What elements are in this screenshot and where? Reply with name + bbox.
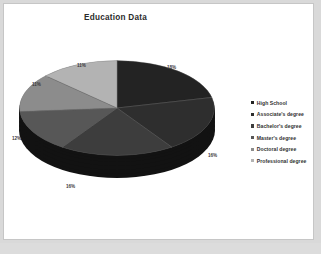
legend-swatch-icon	[251, 124, 254, 127]
pie-top-face	[19, 60, 215, 156]
legend-item: Master's degree	[251, 132, 319, 144]
legend-item-label: Master's degree	[257, 135, 296, 141]
pie-slices	[19, 60, 215, 156]
legend-swatch-icon	[251, 101, 254, 104]
legend-item-label: High School	[257, 100, 287, 106]
chart-legend: High School Associate's degree Bachelor'…	[251, 97, 319, 167]
chart-title: Education Data	[3, 13, 228, 22]
legend-item: Professional degree	[251, 155, 319, 167]
legend-item-label: Bachelor's degree	[257, 123, 302, 129]
legend-item: Doctoral degree	[251, 143, 319, 155]
legend-item-label: Doctoral degree	[257, 146, 297, 152]
legend-item: Associate's degree	[251, 109, 319, 121]
slice-label-associates: 16%	[208, 153, 217, 158]
slice-label-doctoral: 11%	[32, 82, 41, 87]
page-bottom-strip	[0, 243, 321, 254]
legend-item: High School	[251, 97, 319, 109]
pie-chart: Education Data 18% 16% 16% 12% 11% 11% H…	[3, 3, 314, 240]
legend-swatch-icon	[251, 136, 254, 139]
legend-swatch-icon	[251, 148, 254, 151]
slice-label-professional: 11%	[77, 63, 86, 68]
legend-item-label: Professional degree	[257, 158, 307, 164]
chart-screenshot: Education Data 18% 16% 16% 12% 11% 11% H…	[0, 0, 321, 254]
legend-swatch-icon	[251, 159, 254, 162]
slice-label-high-school: 18%	[167, 65, 176, 70]
legend-swatch-icon	[251, 113, 254, 116]
legend-item: Bachelor's degree	[251, 120, 319, 132]
pie-graphic	[19, 60, 219, 190]
slice-label-bachelors: 16%	[66, 184, 75, 189]
slice-label-masters: 12%	[12, 136, 21, 141]
legend-item-label: Associate's degree	[257, 111, 304, 117]
